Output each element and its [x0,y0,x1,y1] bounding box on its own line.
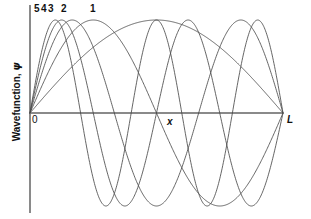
x-end-label: L [287,115,293,125]
x-origin-label: 0 [32,115,38,125]
curve-label-2: 2 [61,4,67,14]
curve-label-3: 3 [48,4,54,14]
wave-curve-n1 [30,20,283,113]
axes-group [30,5,283,213]
x-axis-variable-label: x [167,117,173,127]
curve-label-5: 5 [34,4,40,14]
curve-label-4: 4 [41,4,47,14]
wavefunction-figure: Wavefunction, ψ 0 x L 54321 [0,0,311,219]
plot-area [0,0,311,219]
curve-label-1: 1 [90,4,96,14]
